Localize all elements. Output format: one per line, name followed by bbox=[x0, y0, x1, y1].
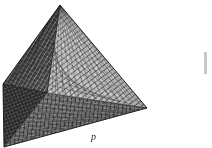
figure-label: p bbox=[0, 131, 196, 143]
tetrahedron-figure bbox=[0, 0, 212, 148]
figure-container: p bbox=[0, 0, 212, 148]
figure-label-text: p bbox=[91, 131, 96, 143]
right-margin-mark bbox=[204, 52, 207, 74]
